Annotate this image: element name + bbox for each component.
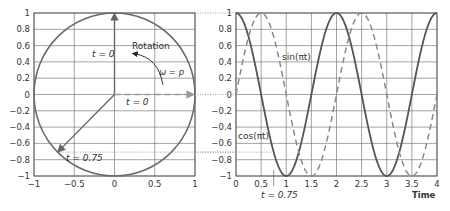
y-tick-label: 0.4 — [218, 57, 232, 67]
x-tick-label: 0 — [233, 179, 238, 189]
y-tick-label: 0.4 — [16, 57, 30, 67]
unit-circle-plot: 10.80.60.40.20−0.2−0.4−0.6−0.8−1−1−0.500… — [9, 8, 197, 189]
y-tick-label: 0.2 — [16, 73, 30, 83]
y-tick-label: −0.6 — [9, 138, 30, 148]
x-tick-label: 0.5 — [148, 179, 162, 189]
x-tick-label: 1 — [284, 179, 289, 189]
x-tick-label: 3 — [384, 179, 389, 189]
time-axis-label: Time — [412, 190, 436, 200]
y-tick-label: −0.4 — [9, 122, 30, 132]
y-tick-label: −0.8 — [211, 155, 232, 165]
y-tick-label: 1 — [25, 8, 30, 18]
y-tick-label: 0.8 — [218, 24, 232, 34]
sin-label: sin(πt) — [282, 52, 311, 62]
omega-label: ω = p — [159, 67, 184, 77]
t075-circle-label: t = 0.75 — [66, 153, 103, 163]
t0-vertical-label: t = 0 — [92, 49, 115, 59]
cos-label: cos(πt) — [238, 131, 269, 141]
y-tick-label: 0.2 — [218, 73, 232, 83]
t0-horizontal-label: t = 0 — [126, 97, 149, 107]
x-tick-label: −1 — [28, 179, 41, 189]
time-plot: 10.80.60.40.20−0.2−0.4−0.6−0.8−100.511.5… — [211, 8, 439, 189]
y-tick-label: 0.6 — [16, 41, 30, 51]
y-tick-label: −0.2 — [211, 106, 232, 116]
y-tick-label: 0 — [227, 90, 232, 100]
y-tick-label: 0 — [25, 90, 30, 100]
y-tick-label: −0.8 — [9, 155, 30, 165]
x-tick-label: 2 — [334, 179, 339, 189]
y-tick-label: 0.6 — [218, 41, 232, 51]
x-tick-label: 0 — [112, 179, 117, 189]
x-tick-label: 2.5 — [355, 179, 369, 189]
x-tick-label: 1 — [192, 179, 197, 189]
y-tick-label: −0.4 — [211, 122, 232, 132]
x-tick-label: 0.5 — [254, 179, 268, 189]
y-tick-label: −0.2 — [9, 106, 30, 116]
x-tick-label: 1.5 — [305, 179, 319, 189]
y-tick-label: −0.6 — [211, 138, 232, 148]
x-tick-label: −0.5 — [64, 179, 85, 189]
x-tick-label: 4 — [434, 179, 439, 189]
y-tick-label: 1 — [227, 8, 232, 18]
x-tick-label: 3.5 — [405, 179, 419, 189]
rotation-label: Rotation — [132, 41, 170, 51]
y-tick-label: 0.8 — [16, 24, 30, 34]
t075-axis-label: t = 0.75 — [261, 190, 298, 200]
y-tick-label: −1 — [219, 171, 232, 181]
figure: 10.80.60.40.20−0.2−0.4−0.6−0.8−1−1−0.500… — [0, 0, 450, 211]
